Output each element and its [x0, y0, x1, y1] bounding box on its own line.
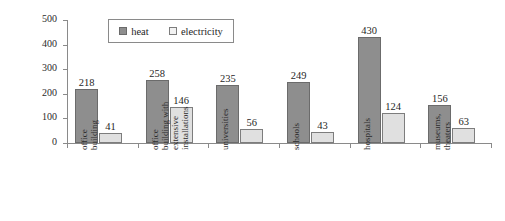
chart-legend: heat electricity [108, 19, 234, 43]
x-axis-tick [138, 143, 139, 148]
x-axis-tick [491, 143, 492, 148]
bar-value-label: 249 [291, 70, 307, 81]
category-label-line: schools [291, 123, 301, 150]
category-label-line: extensive [170, 116, 180, 150]
y-axis-line [67, 20, 68, 144]
bar-value-label: 156 [432, 93, 448, 104]
bar-electricity-0: 41 [99, 133, 122, 143]
x-axis-tick [350, 143, 351, 148]
bar-electricity-4: 124 [382, 113, 405, 144]
y-axis-tick: 300 [63, 69, 68, 70]
category-label-line: theaters [442, 122, 452, 150]
y-axis-tick-label: 400 [42, 38, 57, 49]
legend-item-heat: heat [119, 26, 149, 37]
category-label-line: universities [220, 109, 230, 151]
bar-electricity-3: 43 [311, 132, 334, 143]
category-label-line: museums, [432, 114, 442, 150]
y-axis-tick-label: 0 [52, 136, 57, 147]
bar-value-label: 218 [79, 77, 95, 88]
bar-electricity-2: 56 [240, 129, 263, 143]
bar-value-label: 124 [385, 101, 401, 112]
x-axis-tick [279, 143, 280, 148]
bar-value-label: 258 [149, 68, 165, 79]
bar-value-label: 63 [459, 116, 470, 127]
x-axis-tick [67, 143, 68, 148]
legend-swatch-electricity-icon [169, 27, 177, 35]
y-axis-tick-label: 200 [42, 87, 57, 98]
y-axis-tick: 200 [63, 94, 68, 95]
legend-item-electricity: electricity [169, 26, 223, 37]
legend-swatch-heat-icon [119, 27, 127, 35]
y-axis-tick: 400 [63, 45, 68, 46]
bar-value-label: 235 [220, 73, 236, 84]
category-label-line: building with [160, 102, 170, 150]
y-axis-tick-label: 500 [42, 13, 57, 24]
category-label-line: office [79, 129, 89, 150]
bar-value-label: 56 [247, 117, 258, 128]
bar-electricity-5: 63 [452, 128, 475, 143]
y-axis-tick: 500 [63, 20, 68, 21]
bar-value-label: 430 [361, 25, 377, 36]
category-label-line: office [150, 129, 160, 150]
energy-consumption-bar-chart: energy consumption [kWh/m²a] 01002003004… [0, 0, 505, 221]
y-axis-tick-label: 300 [42, 62, 57, 73]
x-axis-tick [208, 143, 209, 148]
category-label-line: building [89, 120, 99, 150]
bar-value-label: 41 [105, 121, 116, 132]
y-axis-tick: 100 [63, 118, 68, 119]
legend-label-electricity: electricity [181, 26, 223, 37]
legend-label-heat: heat [131, 26, 149, 37]
category-label-line: hospitals [362, 118, 372, 150]
y-axis-tick-label: 100 [42, 111, 57, 122]
category-label-line: installations [180, 107, 190, 151]
bar-value-label: 146 [173, 95, 189, 106]
bar-value-label: 43 [317, 120, 328, 131]
x-axis-tick [420, 143, 421, 148]
